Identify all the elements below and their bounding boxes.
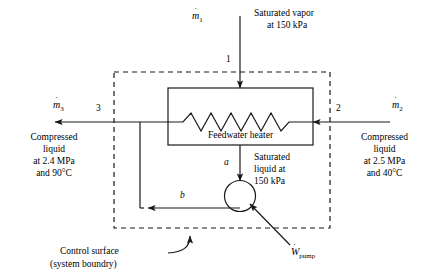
stream-2-description-line4: and 40°C [333, 168, 436, 180]
state-label-a: a [224, 157, 229, 169]
feedwater-heater-label: Feedwater heater [168, 130, 313, 142]
stream-2-mdot-label: ˙m2 [392, 99, 403, 113]
state-label-1: 1 [226, 54, 231, 66]
stream-a-description-line3: 150 kPa [254, 176, 285, 188]
stream-2-description-line3: at 2.5 MPa [333, 156, 436, 168]
stream-3-description-line2: liquid [2, 144, 106, 156]
stream-3-mdot-label: ˙m3 [53, 99, 64, 113]
control-surface-label-line1: Control surface [60, 246, 119, 258]
state-label-2: 2 [336, 103, 341, 115]
control-surface-label-line2: (system boundry) [50, 259, 117, 271]
thermodynamics-diagram: ˙m1 Saturated vapor at 150 kPa 1 ˙m3 3 C… [0, 0, 436, 280]
stream-2-description-line1: Compressed [333, 132, 436, 144]
control-surface-boundary [114, 72, 330, 228]
stream-a-description-line1: Saturated [254, 152, 290, 164]
stream-1-description-line2: at 150 kPa [267, 20, 307, 32]
state-label-3: 3 [96, 103, 101, 115]
pump-work-input-arrow [250, 204, 290, 245]
stream-a-description-line2: liquid at [254, 164, 285, 176]
stream-3-description-line1: Compressed [2, 132, 106, 144]
stream-3-description-line4: and 90°C [2, 168, 106, 180]
pump-symbol [225, 181, 256, 212]
heating-coil-zigzag [168, 113, 313, 131]
stream-3-description-line3: at 2.4 MPa [2, 156, 106, 168]
stream-1-description-line1: Saturated vapor [254, 8, 314, 20]
pump-work-label: ˙Wpump [291, 246, 315, 260]
control-surface-leader-arrow [168, 236, 190, 253]
stream-1-mdot-label: ˙m1 [192, 10, 203, 24]
state-label-b: b [180, 190, 185, 202]
stream-2-description-line2: liquid [333, 144, 436, 156]
